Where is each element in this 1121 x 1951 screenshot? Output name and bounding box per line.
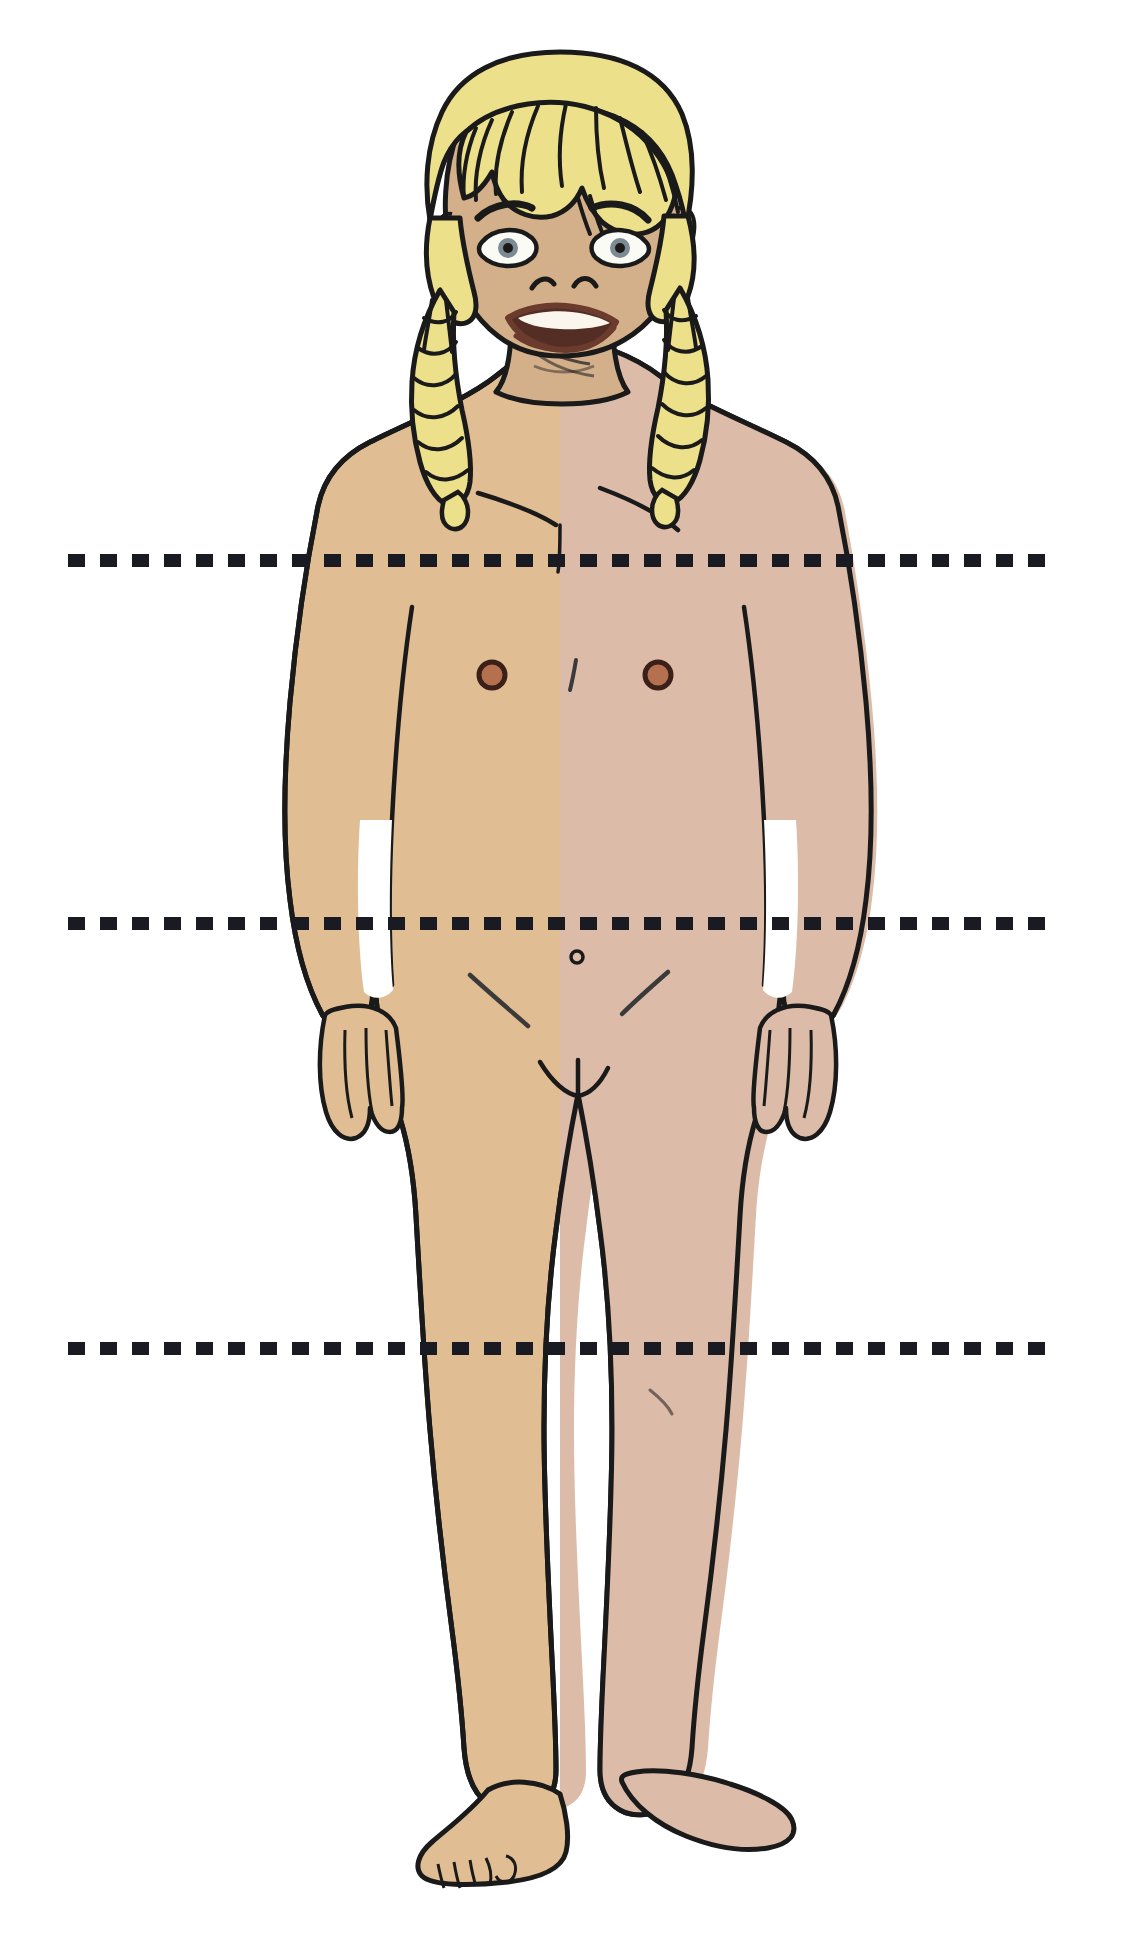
reference-line-dash [932,917,949,930]
right-foot [622,1771,794,1850]
reference-line-dash [772,554,789,567]
reference-line-dash [676,917,693,930]
reference-line-dash [292,554,309,567]
reference-line-dash [996,554,1013,567]
reference-line-dash [548,554,565,567]
reference-line-dash [68,554,85,567]
reference-line-dash [1028,554,1045,567]
reference-line-dash [708,917,725,930]
reference-line-dash [772,1342,789,1355]
reference-line-dash [740,554,757,567]
right-eye [592,230,650,266]
reference-line-dash [836,554,853,567]
reference-line-dash [292,917,309,930]
reference-line-dash [644,1342,661,1355]
reference-line-dash [484,1342,501,1355]
reference-line-dash [132,554,149,567]
right-hand [753,1006,836,1139]
reference-line-dash [516,554,533,567]
reference-line-dash [388,1342,405,1355]
reference-line-dash [420,917,437,930]
left-arm-gap [358,820,393,998]
reference-line-dash [996,1342,1013,1355]
reference-line-dash [836,917,853,930]
reference-line-dash [452,917,469,930]
reference-line-dash [676,1342,693,1355]
reference-line-dash [900,554,917,567]
reference-line-dash [772,917,789,930]
reference-line-dash [548,1342,565,1355]
reference-line-dash [100,917,117,930]
right-nipple [645,662,671,688]
left-braid-tip [442,492,468,529]
reference-line-dash [900,1342,917,1355]
reference-line-dash [708,554,725,567]
reference-line-dash [964,1342,981,1355]
reference-line-dash [868,554,885,567]
left-eye [479,230,537,266]
reference-line-dash [1028,1342,1045,1355]
reference-line-dash [484,917,501,930]
reference-line-dash [708,1342,725,1355]
reference-line-dash [740,1342,757,1355]
reference-line-dash [868,917,885,930]
reference-line-dash [868,1342,885,1355]
reference-line-dash [388,554,405,567]
reference-line-dash [228,1342,245,1355]
reference-line-dash [804,1342,821,1355]
reference-line-dash [996,917,1013,930]
mouth [508,306,616,351]
reference-line-dash [324,917,341,930]
left-foot [418,1782,568,1888]
reference-line-dash [804,554,821,567]
reference-line-dash [452,554,469,567]
reference-line-dash [196,554,213,567]
reference-line-dash [580,1342,597,1355]
reference-line-dash [164,554,181,567]
reference-line-dash [516,1342,533,1355]
reference-line-dash [356,554,373,567]
reference-line-dash [644,554,661,567]
reference-line-dash [260,917,277,930]
reference-line-dash [228,554,245,567]
reference-line-dash [836,1342,853,1355]
reference-line-dash [900,917,917,930]
reference-line-dash [196,1342,213,1355]
reference-line-dash [580,917,597,930]
right-braid-tip [652,490,678,527]
reference-line-dash [164,917,181,930]
reference-line-dash [1028,917,1045,930]
reference-line-dash [740,917,757,930]
reference-line-dash [644,917,661,930]
reference-line-dash [452,1342,469,1355]
reference-line-dash [548,917,565,930]
reference-line-dash [132,1342,149,1355]
reference-line-dash [964,917,981,930]
reference-line-dash [612,554,629,567]
reference-line-dash [516,917,533,930]
reference-line-dash [260,1342,277,1355]
reference-line-dash [676,554,693,567]
reference-line-dash [612,1342,629,1355]
reference-line-dash [100,1342,117,1355]
body-group [285,330,1120,1888]
reference-line-dash [324,1342,341,1355]
right-arm-gap [763,820,798,998]
figure-page [0,0,1121,1951]
reference-line-dash [68,1342,85,1355]
reference-line-dash [964,554,981,567]
reference-line-dash [228,917,245,930]
reference-line-dash [420,554,437,567]
reference-line-dash [612,917,629,930]
body-illustration [0,0,1121,1951]
reference-line-dash [100,554,117,567]
reference-line-dash [932,1342,949,1355]
reference-line-dash [932,554,949,567]
left-nipple [479,662,505,688]
reference-line-dash [356,1342,373,1355]
reference-line-dash [196,917,213,930]
reference-line-dash [68,917,85,930]
reference-line-dash [388,917,405,930]
reference-line-dash [484,554,501,567]
reference-line-dash [292,1342,309,1355]
